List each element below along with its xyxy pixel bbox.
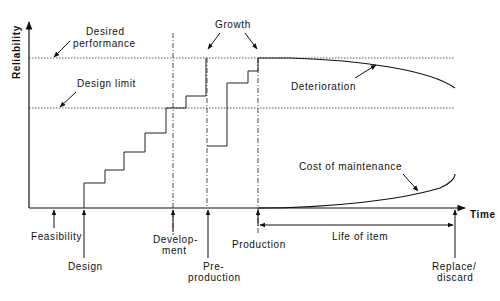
phase-design-label: Design (68, 261, 103, 272)
growth-pointer-right-icon (245, 33, 257, 49)
deterioration-pointer-icon (355, 65, 376, 78)
cost-of-maintenance-curve (258, 174, 455, 208)
phase-feasibility-label: Feasibility (31, 231, 82, 242)
reliability-growth-staircase-2 (207, 58, 258, 146)
x-axis-label: Time (470, 209, 496, 220)
growth-label: Growth (215, 19, 251, 30)
deterioration-curve (258, 58, 455, 88)
desired-performance-label-2: performance (73, 38, 136, 49)
deterioration-label: Deterioration (291, 81, 356, 92)
phase-development-label-2: ment (162, 245, 187, 256)
phase-pre-production-label-2: production (188, 272, 241, 283)
phase-replace-discard-label-2: discard (437, 272, 473, 283)
phase-production-label: Production (232, 239, 286, 250)
growth-pointer-left-icon (208, 33, 220, 49)
phase-pre-production-label-1: Pre- (203, 261, 224, 272)
cost-of-maintenance-label: Cost of maintenance (299, 161, 402, 172)
y-axis-label: Reliability (11, 25, 22, 79)
design-limit-label: Design limit (77, 78, 136, 89)
design-limit-pointer-icon (60, 92, 76, 107)
desired-performance-pointer-icon (54, 41, 70, 57)
phase-replace-discard-label-1: Replace/ (432, 261, 476, 272)
life-of-item-label: Life of item (332, 231, 388, 242)
desired-performance-label-1: Desired (86, 26, 125, 37)
phase-development-label-1: Develop- (153, 234, 198, 245)
cost-of-maintenance-pointer-icon (403, 174, 418, 191)
reliability-lifecycle-diagram: Reliability Time Desired performance Des… (0, 0, 500, 301)
